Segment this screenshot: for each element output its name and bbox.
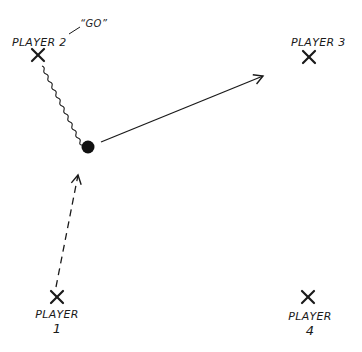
- dribble-path: [42, 66, 82, 145]
- player-1-label: PLAYER: [35, 308, 78, 321]
- pass-arrow: [101, 76, 263, 142]
- player-4-label: PLAYER: [288, 310, 331, 323]
- player-1-number: 1: [53, 321, 61, 336]
- player-1: PLAYER 1: [35, 291, 78, 336]
- player-3: PLAYER 3: [291, 36, 346, 63]
- player-2-label: PLAYER 2: [12, 36, 67, 49]
- go-callout-text: “GO”: [80, 18, 108, 29]
- movement-arrow: [56, 175, 78, 287]
- player-2: PLAYER 2: [12, 36, 67, 61]
- player-4: PLAYER 4: [288, 291, 331, 338]
- x-icon: [303, 51, 315, 63]
- x-icon: [32, 49, 44, 61]
- player-4-number: 4: [306, 323, 314, 338]
- x-icon: [51, 291, 63, 303]
- x-icon: [302, 291, 314, 303]
- play-diagram: PLAYER 2 “GO” PLAYER 3 PLAYER: [0, 0, 362, 352]
- ball-icon: [82, 141, 95, 154]
- player-3-label: PLAYER 3: [291, 36, 346, 49]
- go-callout: “GO”: [69, 18, 108, 34]
